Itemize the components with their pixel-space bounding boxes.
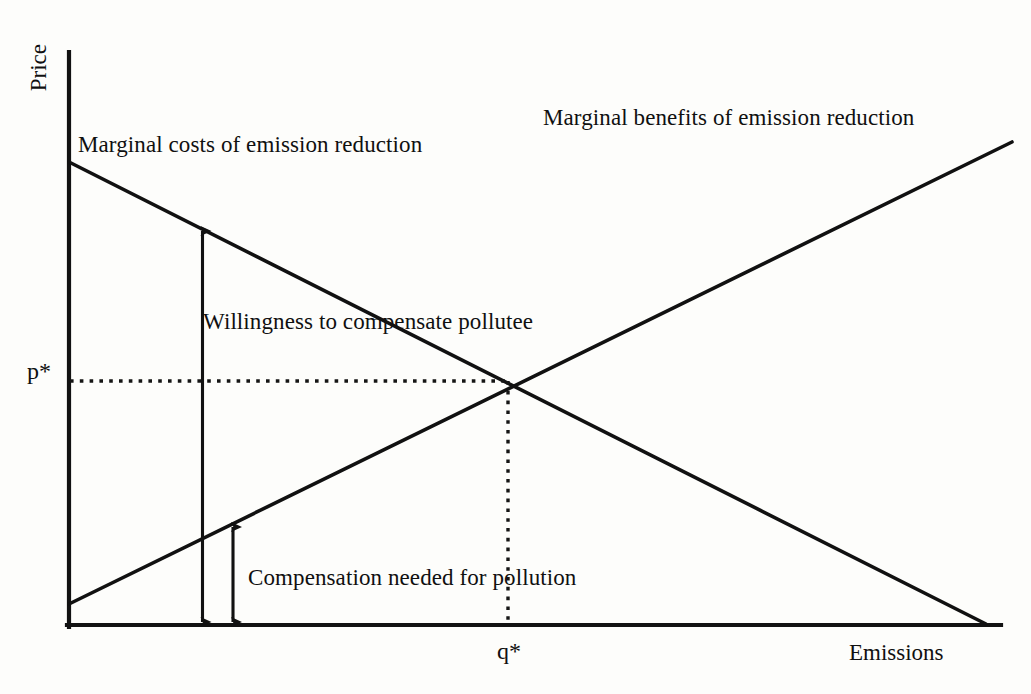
x-axis-title: Emissions (849, 640, 944, 666)
y-axis-title: Price (26, 44, 52, 91)
figure-canvas: Price Emissions p* q* Marginal costs of … (0, 0, 1031, 694)
marginal-costs-curve (69, 162, 986, 624)
willingness-to-compensate-label: Willingness to compensate pollutee (203, 309, 533, 335)
y-axis-tick-label-p-star: p* (27, 358, 51, 385)
marginal-costs-curve-label: Marginal costs of emission reduction (78, 132, 422, 158)
compensation-needed-label: Compensation needed for pollution (248, 565, 576, 591)
marginal-benefits-curve-label: Marginal benefits of emission reduction (543, 105, 914, 131)
marginal-benefits-curve (69, 142, 1012, 604)
x-axis-tick-label-q-star: q* (497, 638, 521, 665)
